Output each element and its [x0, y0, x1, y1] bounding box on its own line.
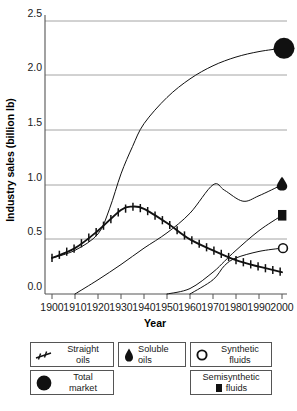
- y-tick-2-5: 2.5: [27, 7, 42, 19]
- x-tick-1900: 1900: [40, 301, 64, 313]
- filled-square-icon: [215, 383, 223, 393]
- x-tick-1980: 1980: [224, 301, 248, 313]
- legend-label-line1: Straight: [67, 344, 99, 354]
- legend-item-soluble-oils[interactable]: Soluble oils: [118, 342, 186, 367]
- marker-open-circle: [279, 244, 288, 253]
- x-tick-1960: 1960: [178, 301, 202, 313]
- series-line: [52, 48, 282, 258]
- series-soluble-oils: [75, 177, 287, 294]
- droplet-icon: [122, 347, 136, 363]
- series-total-market: [52, 38, 295, 258]
- x-tick-labels: 1900 1910 1920 1930 1940 1950 1960 1970 …: [40, 301, 294, 313]
- y-tick-0-5: 0.5: [27, 225, 42, 237]
- series-layer: [52, 38, 295, 294]
- y-tick-0-0: 0.0: [27, 280, 42, 292]
- x-tick-1930: 1930: [109, 301, 133, 313]
- legend-label-total-market: Total market: [54, 372, 110, 393]
- chart-plot-area: Industry sales (billion lb) 2.5 2.0 1.5 …: [0, 0, 297, 330]
- legend-label-straight-oils: Straight oils: [54, 344, 110, 365]
- x-tick-1970: 1970: [201, 301, 225, 313]
- legend-item-semisynthetic-fluids[interactable]: Semisynthetic fluids: [190, 370, 272, 395]
- filled-circle-icon: [34, 374, 54, 392]
- marker-filled-square: [278, 210, 286, 221]
- y-tick-labels: 2.5 2.0 1.5 1.0 0.5 0.0: [27, 7, 42, 292]
- x-tick-1940: 1940: [132, 301, 156, 313]
- x-ticks: [52, 294, 282, 299]
- x-tick-1910: 1910: [63, 301, 87, 313]
- plus-ticks-icon: [34, 347, 54, 363]
- legend-label-line1: Semisynthetic: [194, 372, 268, 383]
- legend-label-synthetic-fluids: Synthetic fluids: [210, 344, 268, 365]
- series-line: [190, 248, 282, 294]
- x-tick-2000: 2000: [270, 301, 294, 313]
- legend-item-synthetic-fluids[interactable]: Synthetic fluids: [190, 342, 272, 367]
- legend-label-line1: Synthetic: [221, 344, 259, 354]
- legend-label-line2: fluids: [226, 383, 247, 394]
- open-circle-icon: [194, 348, 210, 362]
- x-axis-title: Year: [144, 317, 166, 329]
- industry-sales-line-chart: Industry sales (billion lb) 2.5 2.0 1.5 …: [0, 0, 297, 330]
- x-tick-1920: 1920: [86, 301, 110, 313]
- legend-item-total-market[interactable]: Total market: [30, 370, 114, 395]
- legend-label-line1: Total: [73, 372, 92, 382]
- y-tick-1-5: 1.5: [27, 116, 42, 128]
- legend-item-straight-oils[interactable]: Straight oils: [30, 342, 114, 367]
- y-tick-2-0: 2.0: [27, 61, 42, 73]
- series-semisynthetic-fluids: [167, 210, 286, 294]
- marker-droplet: [277, 177, 287, 191]
- legend-label-line2: oils: [76, 355, 90, 365]
- marker-filled-circle: [274, 38, 295, 59]
- x-tick-1950: 1950: [155, 301, 179, 313]
- x-tick-1990: 1990: [247, 301, 271, 313]
- legend-label-line2: market: [69, 383, 97, 393]
- y-axis-title: Industry sales (billion lb): [4, 98, 16, 222]
- y-tick-1-0: 1.0: [27, 171, 42, 183]
- legend-label-soluble-oils: Soluble oils: [136, 344, 182, 365]
- legend-label-line2: fluids: [229, 355, 250, 365]
- chart-legend: Straight oils Total market Soluble oils …: [0, 332, 297, 411]
